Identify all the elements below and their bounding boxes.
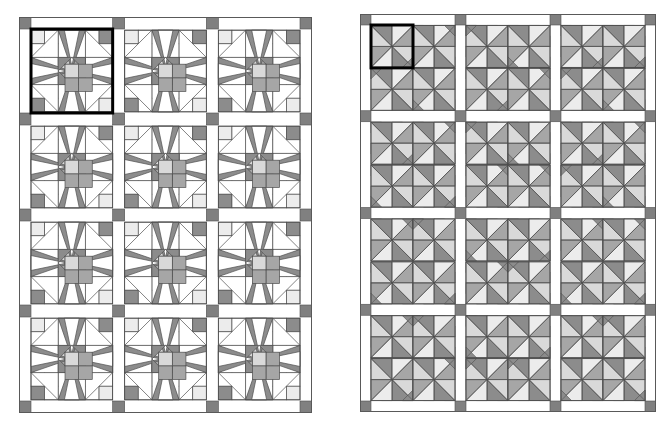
pinwheel-block — [413, 68, 455, 110]
star-block — [31, 318, 113, 400]
pinwheel-block — [371, 165, 413, 207]
seam-lines — [508, 122, 550, 164]
patch — [172, 78, 186, 92]
patch — [99, 194, 113, 208]
pinwheel-block — [603, 262, 645, 304]
patch — [31, 30, 45, 44]
cornerstone — [19, 17, 31, 29]
patch — [193, 222, 207, 236]
pinwheel-block — [371, 316, 413, 358]
patch — [31, 386, 45, 400]
star-block — [31, 126, 113, 208]
cornerstone — [550, 111, 561, 122]
patch — [65, 78, 79, 92]
patch — [159, 160, 173, 174]
seam-lines — [413, 25, 455, 67]
seam-lines — [603, 68, 645, 110]
seam-lines — [561, 68, 603, 110]
seam-lines — [413, 165, 455, 207]
patch — [125, 98, 139, 112]
star-block — [218, 222, 300, 304]
cornerstone — [455, 111, 466, 122]
patch — [172, 64, 186, 78]
cornerstone — [645, 304, 656, 315]
star-block — [218, 126, 300, 208]
pinwheel-block — [603, 25, 645, 67]
seam-lines — [603, 25, 645, 67]
patch — [218, 290, 232, 304]
pinwheel-block — [561, 316, 603, 358]
patch — [31, 222, 45, 236]
cornerstone — [113, 209, 125, 221]
cornerstone — [455, 401, 466, 412]
pinwheel-block — [413, 359, 455, 401]
patch — [99, 98, 113, 112]
patch — [79, 78, 93, 92]
quilt-cell — [31, 30, 113, 112]
cornerstone — [360, 401, 371, 412]
patch — [159, 64, 173, 78]
pinwheel-block — [413, 316, 455, 358]
pinwheel-block — [466, 25, 508, 67]
seam-lines — [603, 165, 645, 207]
cornerstone — [645, 208, 656, 219]
patch — [65, 270, 79, 284]
pinwheel-block — [371, 262, 413, 304]
pinwheel-block — [603, 359, 645, 401]
eight-pointed-star-quilt-panel — [19, 17, 312, 413]
seam-lines — [371, 316, 413, 358]
pinwheel-block — [413, 25, 455, 67]
patch — [159, 78, 173, 92]
seam-lines — [413, 219, 455, 261]
quilt-cell — [218, 126, 300, 208]
pinwheel-block — [561, 165, 603, 207]
patch — [286, 222, 300, 236]
cornerstone — [19, 401, 31, 413]
seam-lines — [413, 68, 455, 110]
pinwheel-block — [508, 25, 550, 67]
patch — [266, 270, 280, 284]
seam-lines — [508, 25, 550, 67]
seam-lines — [466, 25, 508, 67]
patch — [193, 194, 207, 208]
patch — [218, 126, 232, 140]
pinwheel-block — [561, 122, 603, 164]
seam-lines — [603, 262, 645, 304]
patch — [125, 318, 139, 332]
quilt-cell — [125, 126, 207, 208]
pinwheel-block — [413, 122, 455, 164]
patch — [193, 126, 207, 140]
cornerstone — [360, 304, 371, 315]
pinwheel-block — [603, 316, 645, 358]
pinwheel-block — [508, 219, 550, 261]
cornerstone — [300, 305, 312, 317]
cornerstone — [455, 14, 466, 25]
pinwheel-block — [603, 165, 645, 207]
pinwheel-block — [466, 122, 508, 164]
seam-lines — [466, 122, 508, 164]
pinwheel-block — [561, 219, 603, 261]
patch — [172, 352, 186, 366]
star-block — [125, 318, 207, 400]
cornerstone — [206, 305, 218, 317]
star-block — [31, 30, 113, 112]
pinwheel-block — [466, 359, 508, 401]
eight-pointed-star-quilt-svg — [19, 17, 312, 413]
patch — [193, 30, 207, 44]
patch — [99, 126, 113, 140]
patch — [193, 98, 207, 112]
seam-lines — [561, 262, 603, 304]
patch — [193, 386, 207, 400]
cornerstone — [300, 17, 312, 29]
pinwheel-block — [371, 68, 413, 110]
seam-lines — [413, 316, 455, 358]
cornerstone — [113, 401, 125, 413]
quilt-cell — [31, 222, 113, 304]
quilt-cell — [125, 222, 207, 304]
cornerstone — [550, 14, 561, 25]
patch — [286, 386, 300, 400]
patch — [99, 386, 113, 400]
cornerstone — [300, 113, 312, 125]
cornerstone — [550, 401, 561, 412]
pinwheel-block — [561, 25, 603, 67]
